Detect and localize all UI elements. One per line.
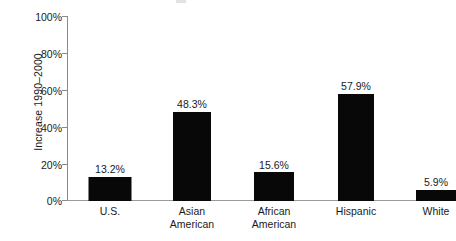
y-tick-label-100: 100% [28,12,62,23]
x-axis-label-us: U.S. [72,205,148,218]
x-axis-label-white-line1: White [423,205,450,217]
y-tick-label-20: 20% [28,160,62,171]
x-axis-label-asian-american: Asian American [154,205,230,230]
bar-asian-american[interactable] [173,112,211,201]
x-axis-label-us-line1: U.S. [100,205,120,217]
bar-white[interactable] [416,190,456,201]
y-tick-label-60: 60% [28,86,62,97]
bar-chart: Increase 1990–2000 100% 80% 60% 40% 20% … [0,0,456,241]
x-axis-label-asian-american-line2: American [154,218,230,231]
bar-group-us: 13.2% [72,16,148,201]
plot-area: 13.2% 48.3% 15.6% 57.9% 5.9% [68,16,451,201]
x-axis-label-white: White [398,205,456,218]
bar-group-african-american: 15.6% [236,16,312,201]
x-axis-label-hispanic: Hispanic [318,205,394,218]
y-tick-label-40: 40% [28,123,62,134]
x-axis-label-african-american-line2: American [236,218,312,231]
bar-value-african-american: 15.6% [259,160,289,171]
bar-hispanic[interactable] [338,94,374,201]
bar-african-american[interactable] [254,172,294,201]
bar-group-white: 5.9% [398,16,456,201]
x-axis-label-asian-american-line1: Asian [179,205,205,217]
x-axis-label-african-american-line1: African [258,205,291,217]
cropped-title-remnant [176,0,186,3]
y-axis-tick-labels: 100% 80% 60% 40% 20% 0% [28,0,62,241]
x-axis-label-african-american: African American [236,205,312,230]
bar-value-us: 13.2% [95,164,125,175]
x-axis-label-hispanic-line1: Hispanic [336,205,376,217]
bar-us[interactable] [89,177,132,201]
bar-value-asian-american: 48.3% [177,99,207,110]
y-tick-label-80: 80% [28,49,62,60]
y-tick-label-0: 0% [28,196,62,207]
bar-value-white: 5.9% [424,177,448,188]
bar-group-asian-american: 48.3% [154,16,230,201]
bar-group-hispanic: 57.9% [318,16,394,201]
bar-value-hispanic: 57.9% [341,81,371,92]
